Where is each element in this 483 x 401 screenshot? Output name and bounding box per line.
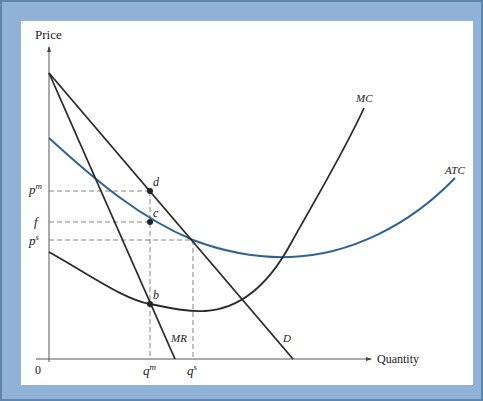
- point-d-label: d: [153, 175, 160, 189]
- mr-line-label: MR: [170, 332, 187, 344]
- ps-label: ps: [28, 232, 40, 248]
- mc-curve: [49, 108, 364, 311]
- mc-curve-label: MC: [355, 92, 373, 104]
- point-c-label: c: [153, 206, 159, 220]
- atc-curve: [49, 138, 455, 257]
- y-axis-title: Price: [35, 27, 62, 42]
- f-label: f: [34, 214, 40, 229]
- origin-label: 0: [35, 363, 41, 377]
- qm-label: qm: [143, 362, 157, 378]
- pm-label: pm: [28, 181, 43, 197]
- demand-line: [49, 73, 293, 359]
- demand-line-label: D: [282, 332, 291, 344]
- atc-curve-label: ATC: [444, 164, 465, 176]
- qs-label: qs: [187, 362, 198, 378]
- x-axis-title: Quantity: [377, 352, 419, 366]
- point-b-label: b: [153, 288, 159, 302]
- monopoly-regulation-chart: Price Quantity 0 pm f ps qm qs d c b MC …: [0, 0, 483, 401]
